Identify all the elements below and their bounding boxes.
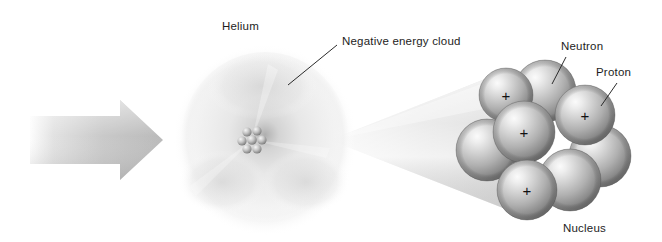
incoming-arrow xyxy=(30,100,163,180)
cloud-lobe-lower-left xyxy=(178,150,266,214)
cloud-lobe-lower-right xyxy=(262,150,350,214)
diagram-canvas: ++++ xyxy=(0,0,662,242)
proton-bottom-left-charge-sign: + xyxy=(523,182,532,199)
proton-bottom-left-sphere: + xyxy=(497,160,557,220)
label-neutron: Neutron xyxy=(561,40,603,52)
proton-right-charge-sign: + xyxy=(581,107,590,124)
proton-center-charge-sign: + xyxy=(520,124,529,141)
label-proton: Proton xyxy=(596,66,631,78)
helium-atom-diagram: ++++ Helium Negative energy cloud Neutro… xyxy=(0,0,662,242)
label-nucleus: Nucleus xyxy=(563,222,606,234)
label-negative-energy-cloud: Negative energy cloud xyxy=(342,35,461,47)
proton-right-sphere: + xyxy=(555,85,615,145)
label-helium: Helium xyxy=(222,20,259,32)
proton-center-sphere: + xyxy=(493,101,555,163)
helium-atom xyxy=(173,44,357,236)
proton-top-left-charge-sign: + xyxy=(502,87,511,104)
